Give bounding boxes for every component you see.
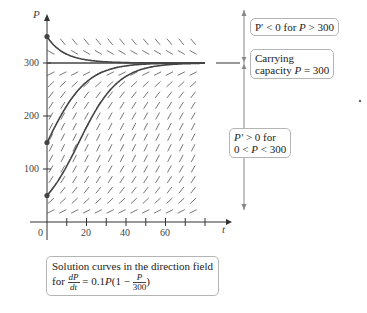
direction-field-segment [155, 39, 160, 45]
direction-field-segment [132, 134, 136, 141]
direction-field-segment [168, 123, 172, 130]
direction-field-segment [132, 113, 136, 120]
y-axis-label: P [33, 8, 40, 20]
direction-field-segment [108, 113, 112, 120]
direction-field-segment [60, 198, 66, 203]
direction-field-segment [167, 113, 171, 120]
annotation-text: P′ < 0 for [255, 21, 299, 33]
annotation-text: P′ > 0 for [234, 131, 286, 143]
direction-field-segment [191, 134, 195, 141]
direction-field-segment [72, 39, 77, 45]
direction-field-segment [179, 113, 183, 120]
direction-field-segment [118, 210, 125, 214]
direction-field-segment [166, 72, 173, 76]
direction-field-segment [167, 187, 172, 193]
direction-field-segment [179, 187, 184, 193]
direction-field-segment [73, 102, 77, 109]
annotation-text: = 300 [301, 64, 329, 76]
direction-field-segment [96, 176, 100, 183]
direction-field-segment [131, 198, 137, 203]
direction-field-segment [154, 210, 161, 214]
direction-field-segment [95, 50, 102, 54]
direction-field-segment [49, 123, 53, 130]
direction-field-segment [85, 113, 89, 120]
direction-field-segment [130, 210, 137, 214]
direction-field-segment [143, 39, 148, 45]
direction-field-segment [73, 155, 77, 162]
direction-field-segment [168, 134, 172, 141]
direction-field-segment [156, 123, 160, 130]
direction-field-segment [72, 187, 77, 193]
direction-field-segment [120, 39, 125, 45]
direction-field-segment [47, 72, 54, 76]
annotation-text: > 0 for [243, 131, 276, 143]
direction-field-segment [83, 72, 90, 76]
direction-field-segment [61, 134, 65, 141]
direction-field-segment [191, 92, 196, 98]
direction-field-segment [180, 134, 184, 141]
direction-field-segment [154, 72, 161, 76]
direction-field-segment [60, 39, 65, 45]
y-tick-label-300: 300 [24, 57, 39, 68]
direction-field-segment [96, 92, 101, 98]
y-axis-arrow-icon [44, 14, 50, 21]
annotation-text: > 300 [306, 21, 334, 33]
direction-field-segment [132, 155, 136, 162]
direction-field-segment [155, 187, 160, 193]
direction-field-segment [85, 155, 89, 162]
direction-field-segment [108, 102, 112, 109]
direction-field-segment [108, 176, 112, 183]
direction-field-segment [167, 166, 171, 173]
direction-field-segment [96, 166, 100, 173]
direction-field-segment [132, 102, 136, 109]
direction-field-segment [83, 210, 90, 214]
direction-field-segment [48, 92, 53, 98]
direction-field-segment [142, 72, 149, 76]
direction-field-segment [73, 176, 77, 183]
direction-field-segment [59, 210, 66, 214]
direction-field-segment [84, 92, 89, 98]
direction-field-segment [120, 123, 124, 130]
annotation-carrying-capacity: Carrying capacity P = 300 [250, 49, 334, 79]
direction-field-segment [131, 39, 136, 45]
caption-text: ) [146, 275, 150, 287]
arrow-up-icon [242, 10, 247, 16]
fraction-denominator: dt [68, 283, 80, 292]
direction-field-segment [61, 102, 65, 109]
caption-text: for [52, 275, 65, 287]
annotation-text: 0 < [234, 143, 251, 155]
solution-curve [47, 37, 205, 64]
direction-field-segment [179, 166, 183, 173]
direction-field-segment [97, 123, 101, 130]
direction-field-segment [156, 166, 160, 173]
direction-field-segment [108, 144, 112, 151]
annotation-text: < 300 [258, 143, 286, 155]
direction-field-segment [190, 81, 196, 86]
x-axis-arrow-icon [226, 219, 232, 225]
direction-field-segment [49, 144, 53, 151]
direction-field-segment [144, 176, 148, 183]
direction-field-segment [179, 92, 184, 98]
direction-field-segment [118, 72, 125, 76]
direction-field-segment [120, 176, 124, 183]
direction-field-segment [108, 39, 113, 45]
arrow-down-icon [242, 204, 247, 210]
direction-field-segment [61, 155, 65, 162]
direction-field-segment [179, 102, 183, 109]
figure-caption: Solution curves in the direction field f… [46, 256, 219, 296]
stray-dot [359, 100, 361, 102]
direction-field-segment [73, 123, 77, 130]
direction-field-segment [191, 187, 196, 193]
direction-field-segment [190, 198, 196, 203]
direction-field-segment [72, 198, 78, 203]
direction-field-segment [61, 176, 65, 183]
direction-field-segment [119, 81, 125, 86]
annotation-text: capacity P = 300 [255, 64, 329, 76]
direction-field-segment [61, 144, 65, 151]
direction-field-segment [71, 50, 78, 54]
direction-field-segment [85, 134, 89, 141]
direction-field-segment [61, 123, 65, 130]
direction-field-segment [132, 144, 136, 151]
direction-field-segment [143, 187, 148, 193]
direction-field-segment [131, 81, 137, 86]
